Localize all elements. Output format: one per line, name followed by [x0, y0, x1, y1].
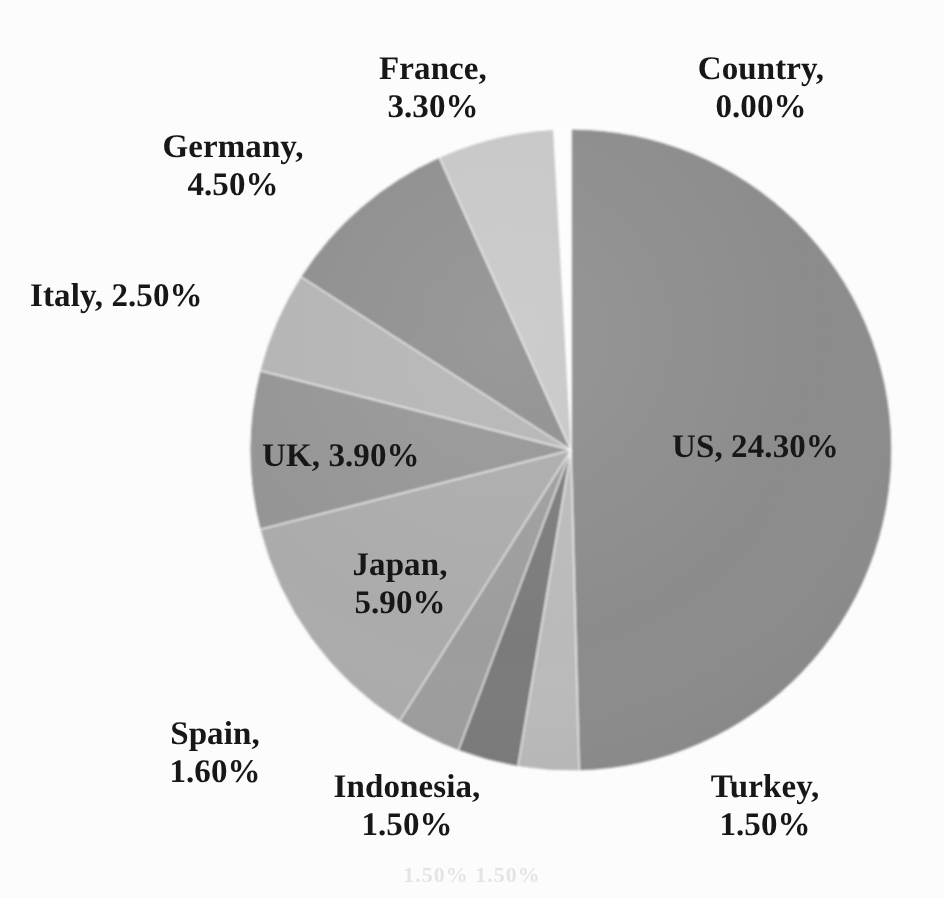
- slice-label-germany: Germany, 4.50%: [118, 128, 348, 205]
- slice-label-japan: Japan, 5.90%: [300, 546, 500, 623]
- slice-label-italy: Italy, 2.50%: [30, 277, 290, 315]
- slice-label-indonesia: Indonesia, 1.50%: [277, 768, 537, 845]
- pie-chart-figure: Country, 0.00% France, 3.30% Germany, 4.…: [0, 0, 944, 898]
- scan-artifact-text: 1.50% 1.50%: [0, 862, 944, 888]
- slice-label-us: US, 24.30%: [672, 428, 922, 466]
- slice-label-uk: UK, 3.90%: [262, 437, 502, 475]
- slice-label-country: Country, 0.00%: [636, 50, 886, 127]
- slice-label-turkey: Turkey, 1.50%: [665, 768, 865, 845]
- slice-label-france: France, 3.30%: [318, 50, 548, 127]
